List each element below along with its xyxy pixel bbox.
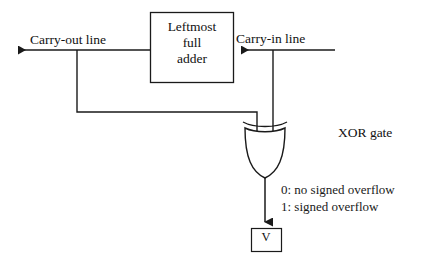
overflow-flag-label: V [251, 231, 281, 244]
xor-gate-label: XOR gate [338, 126, 392, 140]
carry-out-line-label: Carry-out line [30, 33, 106, 47]
xor-gate-arc [243, 122, 287, 127]
xor-gate-body [245, 128, 285, 178]
overflow-result-legend: 0: no signed overflow 1: signed overflow [281, 182, 395, 215]
adder-label-line-2: full [150, 35, 234, 51]
carry-in-line-label: Carry-in line [236, 32, 305, 46]
adder-label-line-3: adder [150, 51, 234, 67]
adder-label-line-1: Leftmost [150, 19, 234, 35]
leftmost-full-adder-label: Leftmost full adder [150, 19, 234, 67]
overflow-detection-diagram: Leftmost full adder Carry-out line Carry… [0, 0, 428, 262]
overflow-result-one: 1: signed overflow [281, 199, 395, 216]
overflow-result-zero: 0: no signed overflow [281, 182, 395, 199]
